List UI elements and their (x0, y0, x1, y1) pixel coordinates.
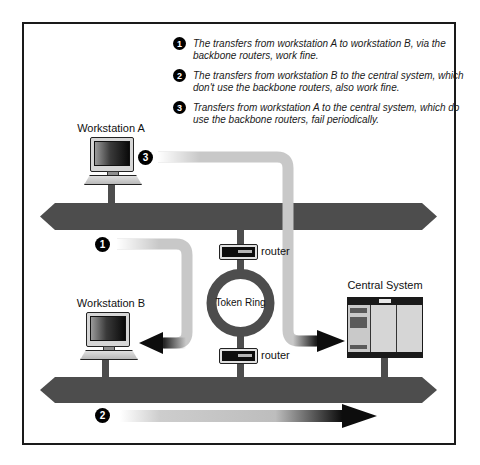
router-slot (238, 354, 252, 357)
annotation-item-3: 3 Transfers from workstation A to the ce… (173, 102, 465, 126)
central-system-label: Central System (340, 279, 430, 291)
flow-badge-2: 2 (95, 408, 110, 423)
router-top-label: router (261, 245, 290, 257)
cabinet-left-panel (348, 305, 371, 352)
token-ring-label: Token Ring (210, 297, 271, 308)
cabinet-base-strip (348, 352, 422, 357)
annotation-number-badge: 1 (173, 37, 186, 50)
monitor-icon (86, 312, 130, 347)
workstation-b-icon (80, 312, 136, 358)
screen (94, 141, 130, 166)
workstation-a-icon (84, 137, 140, 183)
keyboard-icon (80, 350, 138, 360)
monitor-icon (90, 137, 134, 172)
annotation-item-1: 1 The transfers from workstation A to wo… (173, 38, 465, 62)
screen (90, 316, 126, 341)
bottom-backbone-bar (40, 377, 437, 403)
figure-canvas: 1 The transfers from workstation A to wo… (0, 0, 480, 465)
annotation-number-badge: 2 (173, 69, 186, 82)
central-system-icon (347, 297, 423, 358)
cabinet-vent (350, 345, 367, 349)
cabinet-vent (350, 308, 367, 313)
workstation-a-connector (108, 182, 115, 204)
flow-badge-3: 3 (138, 150, 153, 165)
cabinet-door-divider (396, 305, 397, 352)
arrowhead-to-workstation-b (139, 332, 163, 354)
annotation-text: The transfers from workstation A to work… (193, 38, 465, 62)
workstation-a-label: Workstation A (61, 122, 161, 134)
workstation-b-label: Workstation B (61, 297, 161, 309)
central-system-connector (381, 355, 388, 378)
arrowhead-bottom-flow (342, 404, 377, 428)
keyboard-icon (84, 175, 142, 185)
router-bottom-icon (219, 348, 258, 364)
annotation-item-2: 2 The transfers from workstation B to th… (173, 70, 465, 94)
annotation-text: The transfers from workstation B to the … (193, 70, 465, 94)
annotation-text: Transfers from workstation A to the cent… (193, 102, 465, 126)
cabinet-notch (379, 299, 391, 303)
flow-badge-1: 1 (95, 237, 110, 252)
flow-path-2 (120, 404, 377, 428)
cabinet-drive-bay (350, 317, 367, 328)
router-faceplate (222, 247, 255, 257)
router-slot (238, 250, 252, 253)
workstation-b-connector (102, 357, 109, 378)
annotation-number-badge: 3 (173, 101, 186, 114)
top-backbone-bar (40, 203, 437, 230)
arrowhead-to-central-system (317, 330, 345, 352)
router-top-icon (219, 244, 258, 260)
router-bottom-label: router (261, 349, 290, 361)
router-faceplate (222, 351, 255, 361)
